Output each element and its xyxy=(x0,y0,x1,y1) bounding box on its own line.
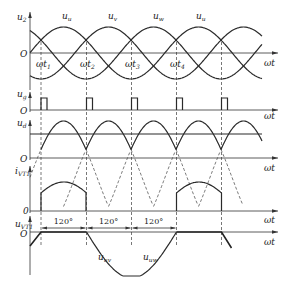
x-axis-label: ωt xyxy=(264,58,275,68)
origin-label: O xyxy=(20,229,28,239)
ud-dashed-tail xyxy=(30,150,41,178)
ivt1-current-pulse xyxy=(41,182,86,211)
x-axis-label: ωt xyxy=(264,215,275,225)
marker-wt1: ωt1 xyxy=(36,59,51,70)
rectifier-waveform-diagram: u2Oωtuuuvuwuuωt1ωt2ωt3ωt4ugOωtudOωtiVT10… xyxy=(0,0,289,281)
arrow-icon xyxy=(28,12,32,18)
phase-label-u: uu xyxy=(62,11,72,22)
origin-label: O xyxy=(20,154,28,164)
ud-dashed-tail xyxy=(109,151,131,207)
gate-pulse xyxy=(177,98,183,110)
gate-pulse xyxy=(41,98,47,110)
ud-envelope-arc xyxy=(131,121,176,150)
x-axis-label: ωt xyxy=(264,163,275,173)
interval-label-120: 120° xyxy=(54,217,73,226)
arrow-icon xyxy=(28,216,32,222)
marker-wt2: ωt2 xyxy=(80,59,95,70)
arrow-icon xyxy=(272,230,278,234)
ud-dashed-tail xyxy=(154,151,176,207)
uvt1-zero-segment xyxy=(30,232,87,246)
x-axis-label: ωt xyxy=(264,237,275,247)
gate-pulse xyxy=(222,98,228,110)
phase-label-w: uw xyxy=(153,11,165,22)
ug-axis-label: ug xyxy=(17,89,27,101)
line-voltage-label-uw: uuw xyxy=(143,252,159,263)
ivt1-current-pulse xyxy=(177,182,222,211)
ud-axis-label: ud xyxy=(17,118,27,129)
u2-axis-label: u2 xyxy=(17,12,27,23)
uvt1-zero-segment xyxy=(177,232,232,248)
interval-label-120: 120° xyxy=(144,217,163,226)
marker-wt4: ωt4 xyxy=(170,59,185,70)
ud-envelope-arc xyxy=(41,121,86,150)
arrow-icon xyxy=(28,92,32,98)
origin-label: O xyxy=(20,49,28,59)
arrow-icon xyxy=(272,156,278,160)
marker-wt3: ωt3 xyxy=(125,59,140,70)
ud-dashed-tail xyxy=(64,151,86,207)
ud-envelope-arc xyxy=(176,121,221,150)
arrow-icon xyxy=(28,120,32,126)
ud-envelope-arc xyxy=(221,121,262,150)
phase-label-u2: uu xyxy=(196,11,206,22)
phase-label-v: uv xyxy=(108,11,118,22)
interval-label-120: 120° xyxy=(99,217,118,226)
x-axis-label: ωt xyxy=(264,111,275,121)
ud-envelope-arc xyxy=(86,121,131,150)
gate-pulse xyxy=(87,98,93,110)
origin-label: O xyxy=(20,106,28,116)
zero-label: 0 xyxy=(23,206,29,216)
ud-dashed-tail xyxy=(199,151,221,207)
arrow-icon xyxy=(272,209,278,213)
ivt1-axis-label: iVT1 xyxy=(15,166,30,177)
line-voltage-label-uv: uuv xyxy=(98,252,112,263)
gate-pulse xyxy=(132,98,138,110)
arrow-icon xyxy=(272,51,278,55)
waveform-svg: u2Oωtuuuvuwuuωt1ωt2ωt3ωt4ugOωtudOωtiVT10… xyxy=(0,0,289,281)
